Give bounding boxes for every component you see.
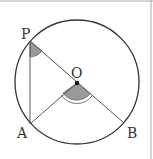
- center-point-o: [75, 81, 79, 85]
- segment-ao: [30, 83, 77, 124]
- angle-apo-mark: [30, 41, 42, 57]
- label-o: O: [71, 65, 82, 81]
- label-a: A: [16, 125, 28, 141]
- geometry-diagram: P O A B: [0, 0, 153, 159]
- label-b: B: [127, 125, 137, 141]
- label-p: P: [21, 26, 30, 42]
